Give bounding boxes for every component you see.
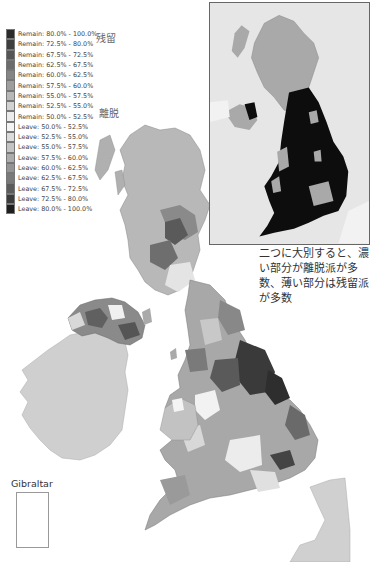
legend-label: Remain: 52.5% - 55.0% (18, 101, 93, 111)
legend-swatch (6, 163, 15, 173)
legend-label: Remain: 67.5% - 72.5% (18, 50, 93, 60)
legend-label: Remain: 50.0% - 52.5% (18, 112, 93, 122)
legend-row: Remain: 57.5% - 60.0% (6, 80, 126, 90)
binary-result-inset-map (209, 2, 370, 245)
legend-row: Remain: 67.5% - 72.5% (6, 50, 126, 60)
legend-swatch (6, 153, 15, 163)
legend-label: Leave: 57.5% - 60.0% (18, 153, 88, 163)
legend-swatch (6, 101, 15, 111)
gibraltar-inset (16, 492, 49, 548)
legend-swatch (6, 204, 15, 214)
legend-swatch (6, 132, 15, 142)
legend-swatch (6, 50, 15, 60)
legend-label: Remain: 55.0% - 57.5% (18, 91, 93, 101)
legend: Remain: 80.0% - 100.0% Remain: 72.5% - 8… (6, 29, 126, 214)
legend-label: Leave: 80.0% - 100.0% (18, 204, 92, 214)
inset-map-svg (210, 3, 369, 244)
legend-row: Remain: 62.5% - 67.5% (6, 60, 126, 70)
legend-label: Leave: 50.0% - 52.5% (18, 122, 88, 132)
legend-label: Leave: 72.5% - 80.0% (18, 194, 88, 204)
legend-swatch (6, 194, 15, 204)
legend-label: Remain: 80.0% - 100.0% (18, 29, 97, 39)
france-landmass (290, 478, 350, 562)
legend-swatch (6, 122, 15, 132)
legend-row: Leave: 80.0% - 100.0% (6, 204, 126, 214)
legend-swatch (6, 91, 15, 101)
legend-row: Leave: 55.0% - 57.5% (6, 142, 126, 152)
legend-label: Remain: 57.5% - 60.0% (18, 81, 93, 91)
legend-swatch (6, 80, 15, 90)
remain-label-jp: 残留 (96, 30, 116, 45)
legend-label: Leave: 55.0% - 57.5% (18, 142, 88, 152)
legend-label: Leave: 52.5% - 55.0% (18, 132, 88, 142)
legend-label: Remain: 72.5% - 80.0% (18, 39, 93, 49)
annotation-text: 二つに大別すると、濃い部分が離脱派が多数、薄い部分は残留派が多数 (259, 246, 371, 306)
legend-row: Leave: 52.5% - 55.0% (6, 132, 126, 142)
legend-swatch (6, 183, 15, 193)
legend-label: Leave: 60.0% - 62.5% (18, 163, 88, 173)
legend-row: Leave: 50.0% - 52.5% (6, 122, 126, 132)
leave-label-jp: 離脱 (99, 105, 119, 120)
legend-swatch (6, 70, 15, 80)
legend-swatch (6, 173, 15, 183)
legend-swatch (6, 29, 15, 39)
legend-row: Remain: 55.0% - 57.5% (6, 91, 126, 101)
legend-swatch (6, 39, 15, 49)
ireland-landmass (20, 330, 128, 460)
legend-row: Leave: 62.5% - 67.5% (6, 173, 126, 183)
legend-label: Leave: 67.5% - 72.5% (18, 184, 88, 194)
legend-label: Remain: 60.0% - 62.5% (18, 70, 93, 80)
legend-row: Leave: 57.5% - 60.0% (6, 153, 126, 163)
legend-row: Leave: 72.5% - 80.0% (6, 194, 126, 204)
legend-label: Leave: 62.5% - 67.5% (18, 173, 88, 183)
gibraltar-label: Gibraltar (11, 478, 53, 489)
legend-row: Leave: 60.0% - 62.5% (6, 163, 126, 173)
legend-swatch (6, 111, 15, 121)
legend-swatch (6, 60, 15, 70)
legend-row: Remain: 60.0% - 62.5% (6, 70, 126, 80)
legend-swatch (6, 142, 15, 152)
legend-label: Remain: 62.5% - 67.5% (18, 60, 93, 70)
legend-row: Leave: 67.5% - 72.5% (6, 183, 126, 193)
